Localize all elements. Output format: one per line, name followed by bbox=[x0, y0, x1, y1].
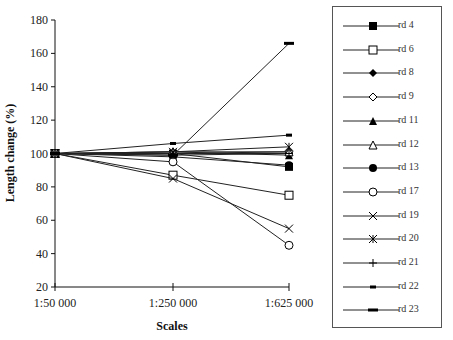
x-tick-label: 1:625 000 bbox=[265, 296, 313, 310]
legend-marker-icon bbox=[343, 135, 399, 155]
legend-item: rd 13 bbox=[333, 158, 441, 178]
legend-label: rd 13 bbox=[398, 161, 419, 172]
legend-marker-icon bbox=[343, 253, 399, 273]
y-axis-title: Length change (%) bbox=[3, 104, 17, 203]
legend-marker-icon bbox=[343, 111, 399, 131]
legend-marker-icon bbox=[343, 300, 399, 320]
legend-item: rd 23 bbox=[333, 300, 441, 320]
y-tick-label: 180 bbox=[30, 13, 48, 27]
legend-marker-icon bbox=[343, 40, 399, 60]
legend-marker-icon bbox=[343, 229, 399, 249]
legend-marker-icon bbox=[343, 63, 399, 83]
y-tick-label: 40 bbox=[36, 247, 48, 261]
legend-label: rd 22 bbox=[398, 280, 419, 291]
y-tick-label: 100 bbox=[30, 147, 48, 161]
legend-marker-icon bbox=[343, 182, 399, 202]
legend-label: rd 9 bbox=[398, 90, 414, 101]
series-rd-23 bbox=[50, 42, 294, 157]
legend-label: rd 11 bbox=[398, 114, 418, 125]
legend-label: rd 8 bbox=[398, 66, 414, 77]
x-tick-label: 1:250 000 bbox=[149, 296, 197, 310]
legend-label: rd 19 bbox=[398, 209, 419, 220]
legend-label: rd 20 bbox=[398, 232, 419, 243]
y-tick-label: 120 bbox=[30, 113, 48, 127]
legend-item: rd 6 bbox=[333, 40, 441, 60]
legend-item: rd 22 bbox=[333, 277, 441, 297]
legend-item: rd 12 bbox=[333, 135, 441, 155]
legend-label: rd 21 bbox=[398, 256, 419, 267]
legend-label: rd 4 bbox=[398, 19, 414, 30]
legend-label: rd 17 bbox=[398, 185, 419, 196]
legend-label: rd 23 bbox=[398, 303, 419, 314]
x-tick-label: 1:50 000 bbox=[34, 296, 76, 310]
y-tick-label: 140 bbox=[30, 80, 48, 94]
legend-label: rd 6 bbox=[398, 43, 414, 54]
y-tick-label: 80 bbox=[36, 180, 48, 194]
legend-item: rd 4 bbox=[333, 16, 441, 36]
legend: rd 4rd 6rd 8rd 9rd 11rd 12rd 13rd 17rd 1… bbox=[332, 6, 442, 328]
y-tick-label: 60 bbox=[36, 213, 48, 227]
legend-item: rd 19 bbox=[333, 206, 441, 226]
legend-label: rd 12 bbox=[398, 138, 419, 149]
legend-item: rd 9 bbox=[333, 87, 441, 107]
legend-item: rd 8 bbox=[333, 63, 441, 83]
y-tick-label: 160 bbox=[30, 46, 48, 60]
legend-marker-icon bbox=[343, 16, 399, 36]
legend-marker-icon bbox=[343, 158, 399, 178]
x-axis-title: Scales bbox=[156, 319, 188, 333]
legend-item: rd 21 bbox=[333, 253, 441, 273]
legend-marker-icon bbox=[343, 206, 399, 226]
legend-marker-icon bbox=[343, 277, 399, 297]
y-tick-label: 20 bbox=[36, 280, 48, 294]
legend-item: rd 17 bbox=[333, 182, 441, 202]
series-rd-17 bbox=[51, 150, 293, 250]
legend-marker-icon bbox=[343, 87, 399, 107]
legend-item: rd 20 bbox=[333, 229, 441, 249]
legend-item: rd 11 bbox=[333, 111, 441, 131]
series-lines bbox=[50, 42, 294, 249]
